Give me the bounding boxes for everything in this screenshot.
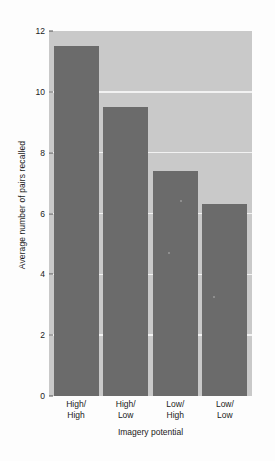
x-tick-label-line: Low xyxy=(195,410,255,421)
bar xyxy=(54,46,99,396)
y-tick-label-2: 2 xyxy=(21,330,45,340)
bar xyxy=(202,204,247,396)
y-tick-mark-10 xyxy=(49,91,53,92)
y-axis-tick-labels: 024681012 xyxy=(20,0,45,461)
scan-speck xyxy=(168,252,170,254)
y-tick-mark-6 xyxy=(49,213,53,214)
y-tick-label-12: 12 xyxy=(21,26,45,36)
y-tick-label-10: 10 xyxy=(21,87,45,97)
x-axis-title: Imagery potential xyxy=(49,427,252,437)
x-tick-label-line: Low/ xyxy=(195,399,255,410)
scan-speck xyxy=(213,296,215,298)
plot-area xyxy=(49,31,252,396)
bar-chart-figure: Average number of pairs recalled 0246810… xyxy=(0,0,275,461)
y-tick-mark-0 xyxy=(49,396,53,397)
y-tick-label-8: 8 xyxy=(21,148,45,158)
scan-speck xyxy=(180,200,182,202)
y-tick-mark-4 xyxy=(49,274,53,275)
y-tick-mark-12 xyxy=(49,31,53,32)
x-tick-label: Low/Low xyxy=(195,399,255,421)
bar xyxy=(103,107,148,396)
y-tick-label-6: 6 xyxy=(21,209,45,219)
y-tick-label-4: 4 xyxy=(21,269,45,279)
y-tick-mark-2 xyxy=(49,335,53,336)
y-tick-mark-8 xyxy=(49,152,53,153)
bar xyxy=(153,171,198,396)
y-tick-label-0: 0 xyxy=(21,391,45,401)
